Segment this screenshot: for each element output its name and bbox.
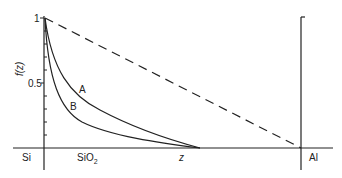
y-tick-label-1: 1 xyxy=(34,13,40,24)
curve-a xyxy=(45,18,200,148)
curve-a-label: A xyxy=(79,84,86,95)
curve-b xyxy=(45,18,200,148)
diagram-canvas: 1 0.5 f(z) A B Si SiO2 z Al xyxy=(0,0,342,178)
y-tick-label-05: 0.5 xyxy=(28,78,42,89)
y-axis-label: f(z) xyxy=(14,62,25,76)
region-sio2-label: SiO2 xyxy=(77,152,98,165)
z-axis-label: z xyxy=(178,152,184,163)
curve-b-label: B xyxy=(70,101,77,112)
dashed-linear-curve xyxy=(45,18,301,148)
region-si-label: Si xyxy=(22,152,31,163)
region-al-label: Al xyxy=(309,152,318,163)
